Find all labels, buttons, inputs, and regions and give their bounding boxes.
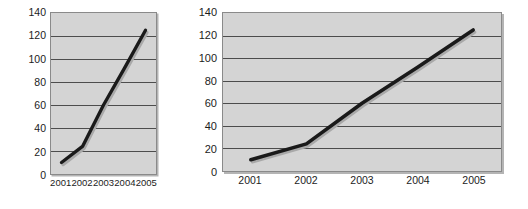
y-axis-tick-label: 120 [199,29,217,40]
x-axis-tick-label: 2001 [238,175,261,186]
y-axis-tick-label: 20 [205,144,217,155]
y-axis-tick-label: 40 [205,121,217,132]
y-axis-tick-label: 120 [28,30,46,41]
y-axis-tick-label: 140 [199,7,217,18]
line-chart-wide: 020406080100120140 20012002200320042005 [190,0,528,209]
y-axis-tick-label: 80 [34,77,46,88]
x-axis-tick-label: 2005 [136,178,157,188]
y-axis-tick-label: 100 [28,53,46,64]
y-axis-narrow: 020406080100120140 [8,12,46,175]
x-axis-tick-label: 2004 [406,175,429,186]
y-axis-tick-label: 60 [205,98,217,109]
x-axis-tick-label: 2005 [462,175,485,186]
y-axis-tick-label: 80 [205,75,217,86]
y-axis-tick-label: 140 [28,7,46,18]
y-axis-tick-label: 40 [34,123,46,134]
plot-area-wide [222,12,502,172]
series-line [251,30,473,160]
y-axis-tick-label: 60 [34,100,46,111]
line-chart-narrow: 020406080100120140 20012002200320042005 [0,0,180,209]
x-axis-narrow: 20012002200320042005 [50,178,157,194]
y-axis-tick-label: 20 [34,146,46,157]
x-axis-tick-label: 2004 [114,178,135,188]
x-axis-tick-label: 2002 [294,175,317,186]
y-axis-tick-label: 0 [211,167,217,178]
series-line [62,30,146,162]
x-axis-tick-label: 2003 [350,175,373,186]
y-axis-wide: 020406080100120140 [190,12,217,172]
x-axis-wide: 20012002200320042005 [222,175,502,191]
x-axis-tick-label: 2002 [72,178,93,188]
y-axis-tick-label: 100 [199,52,217,63]
y-axis-tick-label: 0 [40,170,46,181]
plot-svg-narrow [51,13,156,174]
plot-area-narrow [50,12,157,175]
plot-svg-wide [223,13,501,171]
x-axis-tick-label: 2003 [93,178,114,188]
x-axis-tick-label: 2001 [50,178,71,188]
